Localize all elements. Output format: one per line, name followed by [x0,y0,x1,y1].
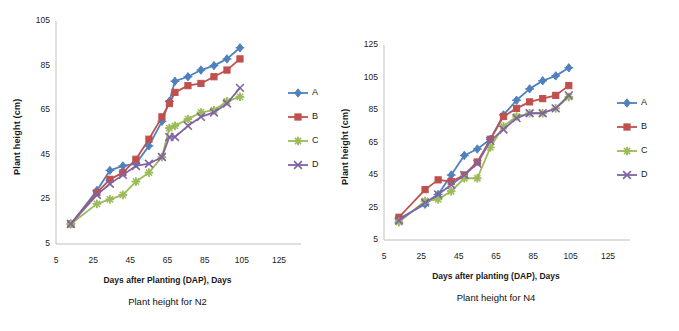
legend-marker-d-icon [287,159,309,171]
y-tick-label: 25 [26,193,50,203]
x-tick-label: 45 [445,251,473,261]
y-tick-label: 5 [354,234,378,244]
x-tick-label: 65 [482,251,510,261]
legend-item-d[interactable]: D [616,163,648,187]
legend-marker-b-icon [287,111,309,123]
x-tick-label: 5 [370,251,398,261]
x-tick-label: 105 [228,255,256,265]
x-tick-label: 65 [154,255,182,265]
legend-label: B [312,112,318,121]
chart-panel-n2: Plant height (cm) Days after Planting (D… [0,0,339,331]
y-tick-label: 125 [354,39,378,49]
legend-n4: ABCD [616,91,648,187]
x-tick-label: 45 [116,255,144,265]
legend-marker-c-icon [287,135,309,147]
x-tick-label: 25 [79,255,107,265]
legend-label: A [312,88,318,97]
legend-label: C [641,146,648,155]
legend-label: B [641,122,647,131]
y-tick-label: 105 [354,72,378,82]
legend-label: D [641,170,648,179]
legend-marker-c-icon [616,145,638,157]
legend-marker-b-icon [616,121,638,133]
legend-label: D [312,160,319,169]
x-tick-label: 125 [594,251,622,261]
y-tick-label: 85 [26,60,50,70]
x-tick-label: 25 [407,251,435,261]
x-axis-title-n2: Days after Planting (DAP), Days [16,275,319,285]
legend-item-b[interactable]: B [287,105,319,129]
legend-item-a[interactable]: A [616,91,648,115]
x-tick-label: 85 [191,255,219,265]
figure-caption-n2: Plant height for N2 [16,296,319,307]
legend-n2: ABCD [287,81,319,177]
y-tick-label: 65 [26,104,50,114]
legend-label: C [312,136,319,145]
y-tick-label: 105 [26,15,50,25]
legend-item-c[interactable]: C [287,129,319,153]
y-tick-label: 5 [26,238,50,248]
x-tick-label: 125 [265,255,293,265]
y-tick-label: 65 [354,137,378,147]
y-tick-label: 85 [354,104,378,114]
x-tick-label: 85 [519,251,547,261]
figure-sheet: Plant height (cm) Days after Planting (D… [0,0,679,331]
legend-label: A [641,98,647,107]
x-axis-title-n4: Days after planting (DAP), Days [344,271,648,281]
x-tick-label: 5 [42,255,70,265]
y-tick-label: 45 [354,169,378,179]
legend-marker-a-icon [287,87,309,99]
chart-panel-n4: Plant height (cm) Days after planting (D… [340,0,679,331]
legend-marker-a-icon [616,97,638,109]
legend-item-d[interactable]: D [287,153,319,177]
y-tick-label: 25 [354,202,378,212]
legend-marker-d-icon [616,169,638,181]
legend-item-a[interactable]: A [287,81,319,105]
legend-item-b[interactable]: B [616,115,648,139]
legend-item-c[interactable]: C [616,139,648,163]
figure-caption-n4: Plant height for N4 [344,292,648,303]
x-tick-label: 105 [557,251,585,261]
y-tick-label: 45 [26,149,50,159]
